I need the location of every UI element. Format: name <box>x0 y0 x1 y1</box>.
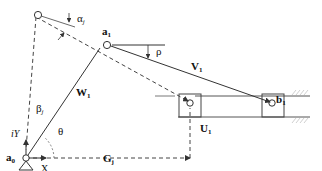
label-iY: iY <box>11 128 21 139</box>
linkage-diagram: a0 a1 b1 W1 V1 U1 Gj αj βj ρ θ iY X <box>0 0 322 171</box>
label-b1: b1 <box>276 93 286 107</box>
joint-a-displaced <box>34 11 41 18</box>
slider-rails <box>155 96 310 117</box>
label-a1: a1 <box>102 25 112 39</box>
ground-pivot <box>19 155 33 170</box>
label-Gj: Gj <box>103 152 114 166</box>
label-V1: V1 <box>191 60 203 74</box>
theta-arc <box>44 137 54 158</box>
label-beta-j: βj <box>36 102 44 116</box>
label-a0: a0 <box>6 151 16 165</box>
label-W1: W1 <box>76 86 91 100</box>
label-U1: U1 <box>200 122 212 136</box>
label-rho: ρ <box>156 45 162 57</box>
label-theta: θ <box>58 125 63 137</box>
joint-b1 <box>269 100 275 106</box>
label-X: X <box>41 163 49 171</box>
linkage-solid <box>26 45 270 158</box>
label-alpha-j: αj <box>77 12 85 26</box>
alpha-arrow-2 <box>58 33 64 40</box>
ground-hatch <box>292 90 308 123</box>
joint-a1 <box>103 41 110 48</box>
joint-slider-displaced <box>187 100 193 106</box>
